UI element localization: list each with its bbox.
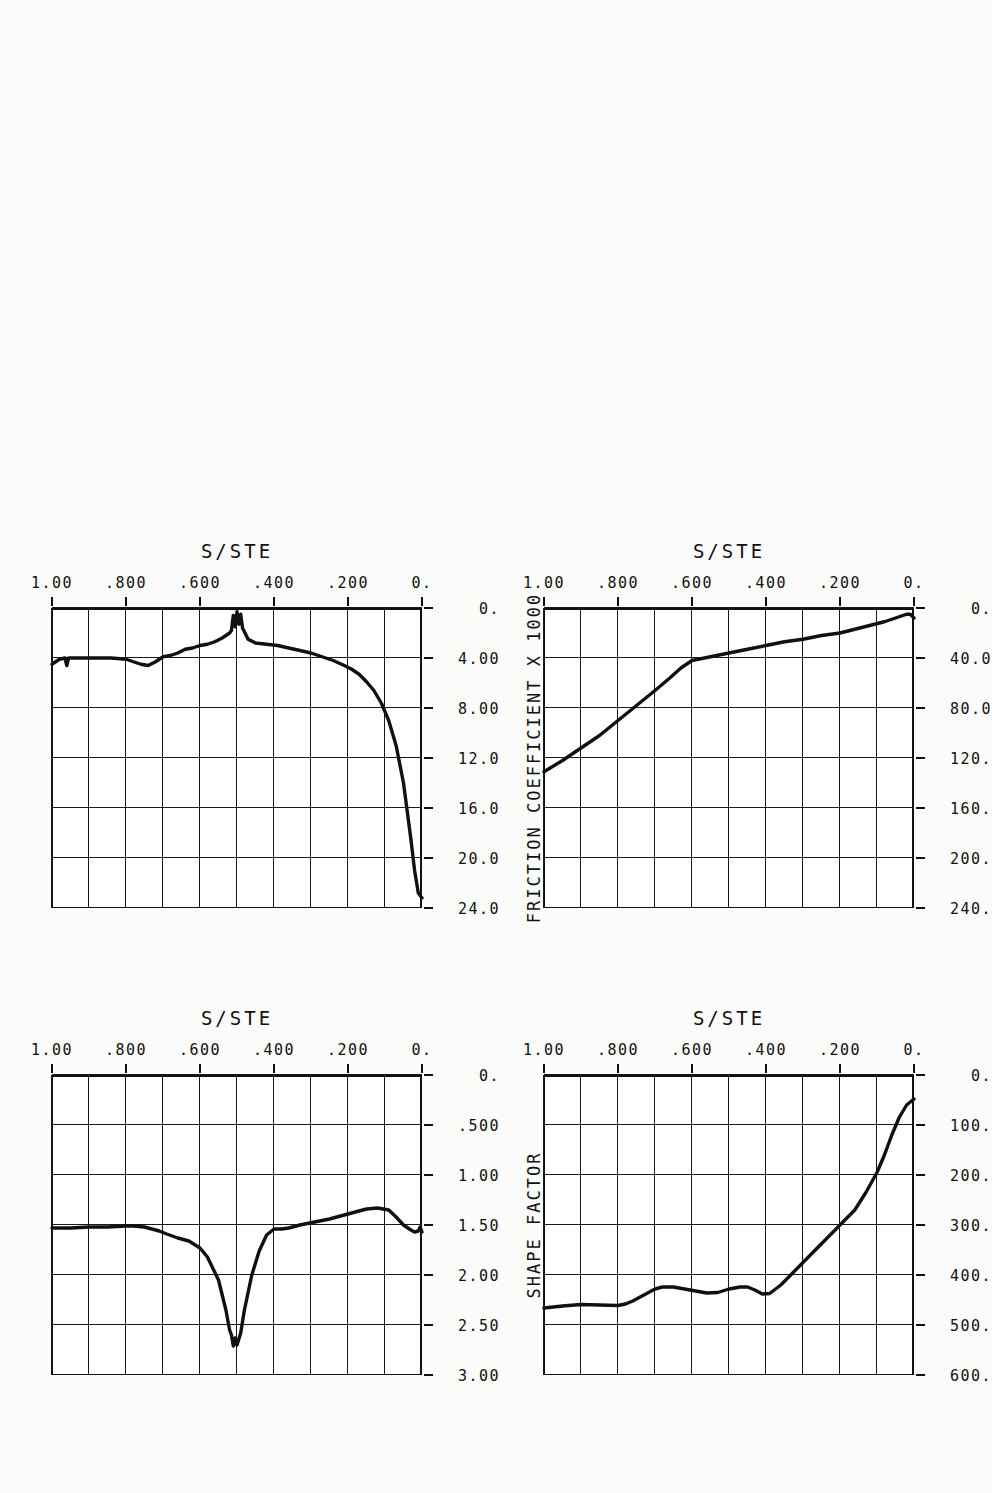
y-axis-tick — [916, 1074, 925, 1076]
y-axis-tick — [916, 1324, 925, 1326]
data-curve-velocity — [544, 1075, 914, 1375]
x-axis-tick-label: 1.00 — [518, 574, 570, 592]
y-axis-tick-label: 500. — [930, 1317, 992, 1335]
x-axis-tick — [765, 1064, 767, 1073]
x-axis-title-shape-factor: S/STE — [52, 1007, 422, 1029]
y-axis-tick-label: 12.0 — [438, 750, 500, 768]
y-axis-tick-label: 200. — [930, 1167, 992, 1185]
x-axis-tick — [839, 1064, 841, 1073]
x-axis-tick-label: .400 — [248, 574, 300, 592]
y-axis-tick — [916, 1374, 925, 1376]
x-axis-tick — [51, 597, 53, 606]
y-axis-tick — [424, 1074, 433, 1076]
y-axis-tick — [916, 807, 925, 809]
plot-area-friction-coefficient — [52, 608, 422, 908]
y-axis-tick-label: 300. — [930, 1217, 992, 1235]
y-axis-tick-label: 240. — [930, 900, 992, 918]
y-axis-tick — [916, 907, 925, 909]
y-axis-tick — [916, 707, 925, 709]
y-axis-tick — [424, 657, 433, 659]
y-axis-tick — [916, 1274, 925, 1276]
y-axis-title-wrap-shape-factor: SHAPE FACTOR — [522, 1075, 546, 1375]
curve-path — [544, 1099, 914, 1308]
y-axis-tick-label: 200. — [930, 850, 992, 868]
y-axis-tick — [424, 707, 433, 709]
y-axis-tick-label: 8.00 — [438, 700, 500, 718]
x-axis-tick-label: 1.00 — [26, 1041, 78, 1059]
x-axis-tick — [839, 597, 841, 606]
x-axis-tick — [691, 1064, 693, 1073]
x-axis-tick-label: 0. — [396, 574, 448, 592]
y-axis-tick-label: 3.00 — [438, 1367, 500, 1385]
x-axis-tick-label: 0. — [888, 574, 940, 592]
x-axis-tick-label: .200 — [322, 574, 374, 592]
x-axis-tick-label: .400 — [248, 1041, 300, 1059]
x-axis-title-momentum-thickness: S/STE — [544, 540, 914, 562]
plot-area-momentum-thickness — [544, 608, 914, 908]
chart-panel-friction-coefficient: 0..200.400.600.8001.000.4.008.0012.016.0… — [52, 608, 422, 908]
x-axis-tick — [347, 597, 349, 606]
y-axis-tick-label: 160. — [930, 800, 992, 818]
y-axis-tick — [916, 857, 925, 859]
y-axis-tick — [916, 757, 925, 759]
y-axis-tick — [424, 1324, 433, 1326]
y-axis-tick-label: 100. — [930, 1117, 992, 1135]
y-axis-tick-label: 1.00 — [438, 1167, 500, 1185]
x-axis-tick-label: .800 — [592, 1041, 644, 1059]
y-axis-tick-label: 24.0 — [438, 900, 500, 918]
y-axis-tick — [424, 857, 433, 859]
y-axis-tick — [424, 757, 433, 759]
y-axis-tick-label: 0. — [930, 600, 992, 618]
y-axis-tick-label: .500 — [438, 1117, 500, 1135]
x-axis-tick — [421, 597, 423, 606]
y-axis-tick-label: 4.00 — [438, 650, 500, 668]
y-axis-tick-label: 0. — [438, 600, 500, 618]
y-axis-tick-label: 600. — [930, 1367, 992, 1385]
y-axis-title-wrap-friction-coefficient: FRICTION COEFFICIENT X 1000 — [522, 608, 546, 908]
x-axis-tick-label: .600 — [666, 574, 718, 592]
y-axis-tick-label: 2.00 — [438, 1267, 500, 1285]
data-curve-shape-factor — [52, 1075, 422, 1375]
y-axis-tick — [424, 907, 433, 909]
y-axis-tick-label: 0. — [438, 1067, 500, 1085]
x-axis-tick — [273, 1064, 275, 1073]
x-axis-tick-label: .800 — [100, 574, 152, 592]
y-axis-tick-label: 20.0 — [438, 850, 500, 868]
y-axis-tick — [424, 607, 433, 609]
y-axis-title-shape-factor: SHAPE FACTOR — [524, 1152, 544, 1299]
y-axis-tick-label: 1.50 — [438, 1217, 500, 1235]
curve-path — [52, 612, 422, 898]
y-axis-title-friction-coefficient: FRICTION COEFFICIENT X 1000 — [524, 593, 544, 923]
y-axis-tick — [424, 1174, 433, 1176]
x-axis-tick-label: 1.00 — [26, 574, 78, 592]
x-axis-tick-label: .600 — [174, 1041, 226, 1059]
x-axis-tick — [913, 597, 915, 606]
x-axis-tick — [543, 1064, 545, 1073]
y-axis-tick — [916, 1224, 925, 1226]
x-axis-tick-label: .200 — [322, 1041, 374, 1059]
x-axis-tick — [421, 1064, 423, 1073]
x-axis-tick-label: 0. — [396, 1041, 448, 1059]
data-curve-momentum-thickness — [544, 608, 914, 908]
y-axis-tick — [916, 1124, 925, 1126]
x-axis-tick — [51, 1064, 53, 1073]
y-axis-tick-label: 120. — [930, 750, 992, 768]
data-curve-friction-coefficient — [52, 608, 422, 908]
y-axis-tick — [916, 607, 925, 609]
x-axis-tick-label: .200 — [814, 1041, 866, 1059]
y-axis-tick — [424, 807, 433, 809]
y-axis-tick — [916, 1174, 925, 1176]
y-axis-tick-label: 400. — [930, 1267, 992, 1285]
x-axis-tick — [125, 597, 127, 606]
x-axis-tick — [691, 597, 693, 606]
plot-area-velocity — [544, 1075, 914, 1375]
plot-area-shape-factor — [52, 1075, 422, 1375]
x-axis-tick-label: .400 — [740, 574, 792, 592]
y-axis-tick — [424, 1124, 433, 1126]
y-axis-tick — [424, 1224, 433, 1226]
x-axis-tick-label: 1.00 — [518, 1041, 570, 1059]
x-axis-tick-label: 0. — [888, 1041, 940, 1059]
x-axis-tick — [617, 597, 619, 606]
x-axis-tick — [765, 597, 767, 606]
y-axis-tick-label: 0. — [930, 1067, 992, 1085]
